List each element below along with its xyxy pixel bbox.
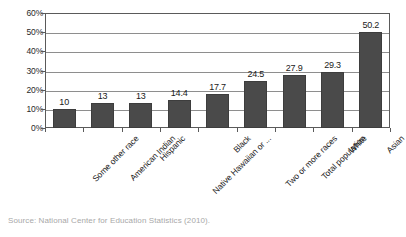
bar xyxy=(359,32,382,128)
bar-slot: 14.4 xyxy=(160,13,198,128)
y-axis-tick-label: 0% xyxy=(3,124,43,133)
bar-slot: 13 xyxy=(83,13,121,128)
bar xyxy=(91,103,114,128)
bar-value-label: 50.2 xyxy=(352,21,390,30)
x-axis-tick-mark xyxy=(390,128,391,132)
source-caption: Source: National Center for Education St… xyxy=(8,216,210,226)
bar-value-label: 17.7 xyxy=(198,83,236,92)
bar-slot: 50.2 xyxy=(352,13,390,128)
x-axis-tick-mark xyxy=(160,128,161,132)
x-axis-category-label: Asian xyxy=(385,134,406,155)
bar-slot: 10 xyxy=(45,13,83,128)
bar-value-label: 29.3 xyxy=(313,61,351,70)
x-axis-category-label: White xyxy=(347,134,368,155)
x-axis-tick-mark xyxy=(45,128,46,132)
bar xyxy=(321,72,344,128)
y-axis-tick-label: 40% xyxy=(3,47,43,56)
bar-value-label: 14.4 xyxy=(160,89,198,98)
x-axis-tick-mark xyxy=(83,128,84,132)
y-axis-tick-label: 20% xyxy=(3,86,43,95)
x-axis-tick-mark xyxy=(275,128,276,132)
y-axis-tick-label: 50% xyxy=(3,28,43,37)
x-axis-tick-mark xyxy=(352,128,353,132)
bar xyxy=(53,109,76,128)
bar xyxy=(206,94,229,128)
bar-value-label: 24.5 xyxy=(237,70,275,79)
bar-slot: 24.5 xyxy=(237,13,275,128)
y-axis-tick-label: 60% xyxy=(3,9,43,18)
bar-slot: 17.7 xyxy=(198,13,236,128)
bar xyxy=(244,81,267,128)
bar-slot: 13 xyxy=(122,13,160,128)
bar-slot: 29.3 xyxy=(313,13,351,128)
bar xyxy=(283,75,306,128)
bar xyxy=(129,103,152,128)
bar-value-label: 27.9 xyxy=(275,64,313,73)
bar xyxy=(168,100,191,128)
y-axis-tick-label: 30% xyxy=(3,67,43,76)
x-axis-tick-mark xyxy=(313,128,314,132)
x-axis-tick-mark xyxy=(237,128,238,132)
bar-value-label: 10 xyxy=(45,98,83,107)
bar-value-label: 13 xyxy=(83,92,121,101)
x-axis-tick-mark xyxy=(122,128,123,132)
y-axis-tick-label: 10% xyxy=(3,105,43,114)
bars-layer: 10131314.417.724.527.929.350.2 xyxy=(45,13,390,128)
x-axis-tick-mark xyxy=(198,128,199,132)
bar-slot: 27.9 xyxy=(275,13,313,128)
bar-value-label: 13 xyxy=(122,92,160,101)
